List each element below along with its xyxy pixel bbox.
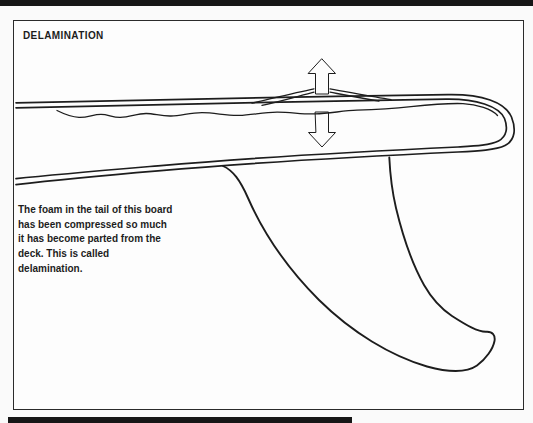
- figure-title: DELAMINATION: [23, 30, 104, 41]
- caption-line: has been compressed so much: [18, 218, 172, 233]
- caption-line: The foam in the tail of this board: [18, 203, 172, 218]
- figure-caption: The foam in the tail of this board has b…: [18, 203, 172, 277]
- bottom-page-edge-bar: [8, 417, 352, 423]
- top-page-edge-bar: [0, 0, 533, 6]
- caption-line: it has become parted from the: [18, 232, 172, 247]
- caption-line: delamination.: [18, 262, 172, 277]
- caption-line: deck. This is called: [18, 247, 172, 262]
- scanned-page: DELAMINATION The foam in the tail of thi…: [0, 0, 533, 423]
